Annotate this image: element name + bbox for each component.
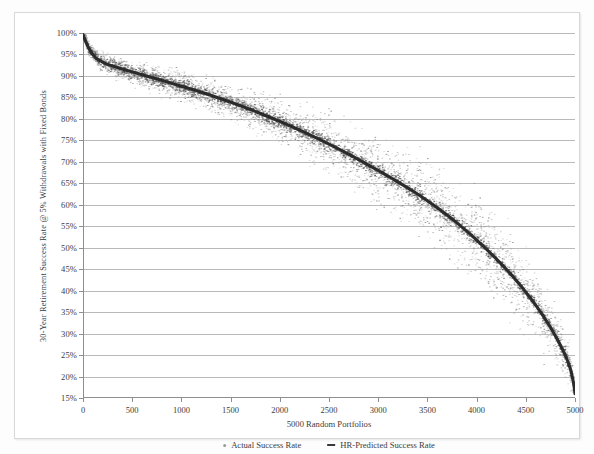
y-tick-label: 100% (49, 28, 77, 38)
legend-label-actual: Actual Success Rate (231, 440, 301, 450)
x-tick-mark (575, 398, 576, 402)
y-tick-label: 70% (49, 157, 77, 167)
legend-item-actual[interactable]: Actual Success Rate (223, 440, 301, 450)
legend-item-predicted[interactable]: HR-Predicted Success Rate (327, 440, 435, 450)
x-tick-label: 4500 (517, 405, 534, 415)
line-marker-icon (327, 444, 335, 446)
y-tick-label: 30% (49, 329, 77, 339)
x-tick-label: 2500 (321, 405, 338, 415)
x-tick-label: 0 (81, 405, 85, 415)
x-tick-mark (427, 398, 428, 402)
x-tick-label: 5000 (567, 405, 584, 415)
y-tick-label: 55% (49, 221, 77, 231)
plot-area: 15%20%25%30%35%40%45%50%55%60%65%70%75%8… (83, 33, 575, 398)
y-tick-label: 20% (49, 372, 77, 382)
figure-frame: 15%20%25%30%35%40%45%50%55%60%65%70%75%8… (14, 12, 580, 439)
y-tick-label: 75% (49, 135, 77, 145)
x-tick-mark (280, 398, 281, 402)
x-tick-label: 1500 (222, 405, 239, 415)
y-tick-label: 50% (49, 243, 77, 253)
chart-legend: Actual Success Rate HR-Predicted Success… (223, 440, 435, 450)
x-tick-mark (378, 398, 379, 402)
chart-page: 15%20%25%30%35%40%45%50%55%60%65%70%75%8… (0, 0, 594, 454)
x-tick-label: 4000 (468, 405, 485, 415)
x-tick-mark (477, 398, 478, 402)
x-tick-label: 2000 (271, 405, 288, 415)
legend-label-predicted: HR-Predicted Success Rate (340, 440, 435, 450)
x-tick-mark (526, 398, 527, 402)
chart-canvas (83, 33, 575, 398)
actual-success-rate-scatter (83, 34, 575, 395)
y-tick-label: 25% (49, 350, 77, 360)
x-tick-mark (181, 398, 182, 402)
y-tick-label: 65% (49, 178, 77, 188)
x-tick-label: 1000 (173, 405, 190, 415)
x-tick-label: 3000 (370, 405, 387, 415)
y-tick-label: 80% (49, 114, 77, 124)
y-tick-label: 40% (49, 286, 77, 296)
y-tick-label: 85% (49, 92, 77, 102)
y-tick-label: 95% (49, 49, 77, 59)
x-tick-mark (132, 398, 133, 402)
y-axis-title: 30-Year Retirement Success Rate @ 5% Wit… (39, 90, 48, 342)
y-tick-label: 45% (49, 264, 77, 274)
x-tick-mark (231, 398, 232, 402)
x-tick-mark (83, 398, 84, 402)
x-axis-title: 5000 Random Portfolios (287, 419, 372, 429)
x-tick-label: 500 (126, 405, 139, 415)
y-tick-label: 35% (49, 307, 77, 317)
scatter-marker-icon (223, 444, 226, 447)
y-tick-label: 60% (49, 200, 77, 210)
hr-predicted-success-rate-line (83, 35, 575, 394)
y-tick-label: 90% (49, 71, 77, 81)
y-tick-label: 15% (49, 393, 77, 403)
x-tick-label: 3500 (419, 405, 436, 415)
x-tick-mark (329, 398, 330, 402)
